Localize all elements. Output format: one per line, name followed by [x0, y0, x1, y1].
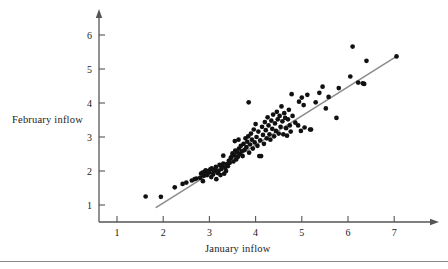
data-point	[246, 100, 251, 105]
data-point	[279, 104, 284, 109]
data-point	[326, 95, 331, 100]
data-point	[305, 92, 310, 97]
data-point	[296, 123, 301, 128]
data-point	[275, 109, 280, 114]
data-point	[334, 116, 339, 121]
data-point	[302, 125, 307, 130]
data-point	[282, 111, 287, 116]
x-axis-tick-label: 2	[161, 227, 166, 238]
data-point	[267, 132, 272, 137]
data-point	[286, 117, 291, 122]
y-axis-tick-label: 3	[87, 132, 92, 143]
data-point	[240, 154, 245, 159]
data-point	[287, 107, 292, 112]
y-axis-tick-label: 6	[87, 30, 92, 41]
scatter-plot-figure: 1234567123456 February inflow January in…	[0, 0, 448, 269]
data-point	[288, 129, 293, 134]
data-point	[221, 153, 226, 158]
y-axis-tick-label: 2	[87, 166, 92, 177]
data-point	[299, 129, 304, 134]
tick-labels-group: 1234567123456	[87, 30, 397, 238]
data-point	[143, 194, 148, 199]
y-axis-tick-label: 1	[87, 200, 92, 211]
x-axis-tick-label: 7	[392, 227, 397, 238]
data-point	[248, 142, 253, 147]
data-point	[273, 121, 278, 126]
footer-divider	[0, 261, 448, 262]
data-point	[259, 154, 264, 159]
data-point	[253, 122, 258, 127]
data-point	[172, 185, 177, 190]
x-axis-arrowhead	[430, 219, 439, 225]
data-point	[336, 86, 341, 91]
data-point	[256, 129, 261, 134]
data-point	[255, 143, 260, 148]
data-point	[251, 127, 256, 132]
data-point	[287, 123, 292, 128]
data-point	[350, 44, 355, 49]
data-point	[249, 131, 254, 136]
data-point	[356, 80, 361, 85]
data-point	[184, 180, 189, 185]
data-point	[323, 106, 328, 111]
data-point	[201, 179, 206, 184]
data-point	[224, 169, 229, 174]
data-point	[277, 114, 282, 119]
x-axis-tick-label: 6	[346, 227, 351, 238]
x-axis-label: January inflow	[205, 243, 271, 254]
data-point	[261, 133, 266, 138]
data-point	[285, 133, 290, 138]
data-point	[364, 58, 369, 63]
x-axis-tick-label: 1	[115, 227, 120, 238]
data-point	[268, 137, 273, 142]
x-axis-tick-label: 5	[299, 227, 304, 238]
y-axis-tick-label: 4	[87, 98, 92, 109]
data-point	[258, 138, 263, 143]
data-point	[263, 128, 268, 133]
data-point	[262, 120, 267, 125]
data-point	[276, 131, 281, 136]
data-point	[247, 150, 252, 155]
data-point	[254, 135, 259, 140]
data-point	[348, 74, 353, 79]
data-point	[159, 194, 164, 199]
data-point	[290, 114, 295, 119]
data-point	[309, 127, 314, 132]
data-point	[272, 134, 277, 139]
data-point	[265, 115, 270, 120]
data-point	[250, 146, 255, 151]
data-point	[266, 123, 271, 128]
y-axis-arrowhead	[96, 9, 102, 18]
data-point	[301, 103, 306, 108]
data-point	[317, 90, 322, 95]
data-point	[236, 137, 241, 142]
data-points-group	[143, 44, 399, 199]
data-point	[260, 124, 265, 129]
x-axis-tick-label: 4	[253, 227, 258, 238]
x-axis-tick-label: 3	[207, 227, 212, 238]
data-point	[299, 95, 304, 100]
data-point	[262, 141, 267, 146]
data-point	[394, 54, 399, 59]
data-point	[362, 82, 367, 87]
y-axis-label: February inflow	[12, 114, 83, 125]
data-point	[313, 100, 318, 105]
data-point	[214, 177, 219, 182]
y-axis-tick-label: 5	[87, 64, 92, 75]
data-point	[320, 84, 325, 89]
data-point	[297, 99, 302, 104]
plot-canvas: 1234567123456	[0, 0, 448, 269]
data-point	[278, 124, 283, 129]
data-point	[289, 92, 294, 97]
